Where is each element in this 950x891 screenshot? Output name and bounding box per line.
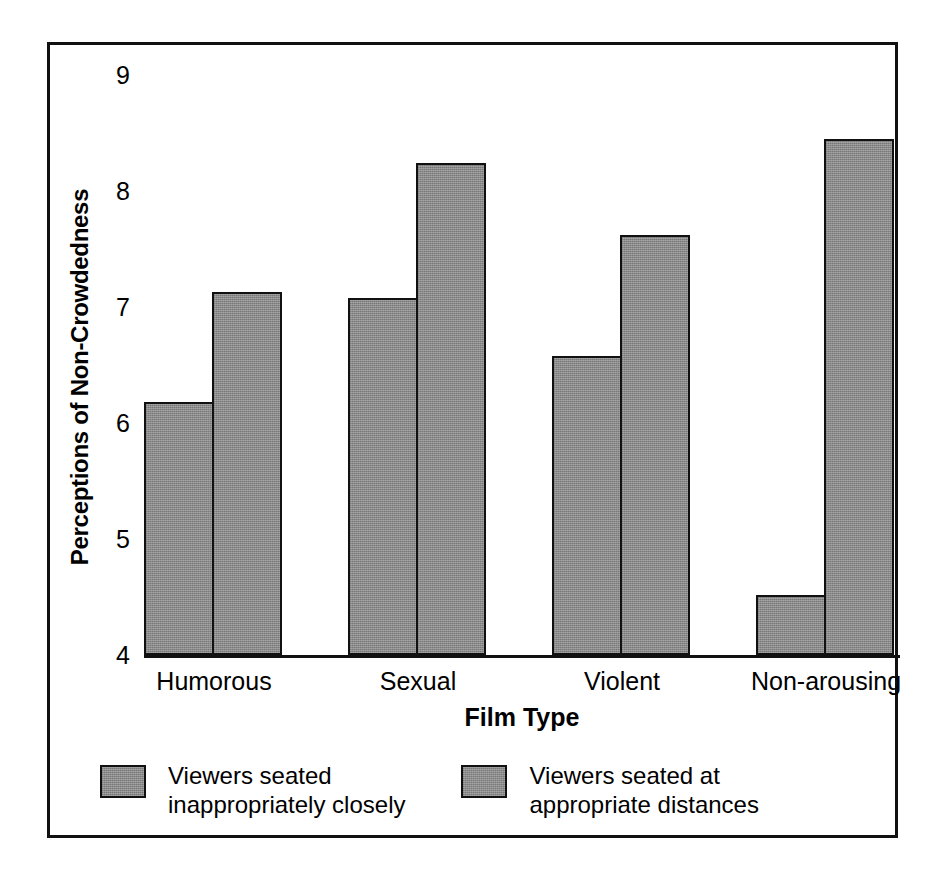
bar-sexual-appropriate[interactable] <box>416 163 486 655</box>
x-tick-label-humorous: Humorous <box>156 667 271 696</box>
y-tick-label-9: 9 <box>116 63 130 88</box>
figure-frame: Perceptions of Non-Crowdedness 9 8 7 6 5… <box>47 42 898 838</box>
y-axis-title: Perceptions of Non-Crowdedness <box>65 87 95 667</box>
plot-area: 9 8 7 6 5 4 Humorous Sexual Violent Non-… <box>144 75 900 655</box>
bar-group-non-arousing <box>756 75 894 655</box>
legend-label: Viewers seated inappropriately closely <box>168 761 405 820</box>
bar-group-humorous <box>144 75 282 655</box>
bar-violent-appropriate[interactable] <box>620 235 690 655</box>
y-tick-label-8: 8 <box>116 179 130 204</box>
y-tick-label-6: 6 <box>116 411 130 436</box>
x-tick-label-sexual: Sexual <box>380 667 456 696</box>
legend-label: Viewers seated at appropriate distances <box>529 761 758 820</box>
x-axis-line <box>144 655 900 658</box>
bar-humorous-appropriate[interactable] <box>212 292 282 655</box>
bar-humorous-close[interactable] <box>144 402 214 655</box>
y-tick-label-7: 7 <box>116 295 130 320</box>
legend-entry-inappropriately-closely[interactable]: Viewers seated inappropriately closely <box>100 761 405 820</box>
scan-artifact <box>608 0 908 9</box>
y-tick-label-5: 5 <box>116 527 130 552</box>
bar-sexual-close[interactable] <box>348 298 418 655</box>
bar-non-arousing-appropriate[interactable] <box>824 139 894 655</box>
bar-non-arousing-close[interactable] <box>756 595 826 655</box>
x-tick-label-non-arousing: Non-arousing <box>751 667 901 696</box>
chart-legend: Viewers seated inappropriately closely V… <box>100 761 860 820</box>
legend-entry-appropriate-distances[interactable]: Viewers seated at appropriate distances <box>461 761 758 820</box>
bar-group-violent <box>552 75 690 655</box>
y-tick-label-4: 4 <box>116 643 130 668</box>
legend-swatch-icon <box>461 765 507 798</box>
x-tick-label-violent: Violent <box>584 667 660 696</box>
bar-group-sexual <box>348 75 486 655</box>
bar-violent-close[interactable] <box>552 356 622 655</box>
x-axis-title: Film Type <box>144 703 900 732</box>
legend-swatch-icon <box>100 765 146 798</box>
